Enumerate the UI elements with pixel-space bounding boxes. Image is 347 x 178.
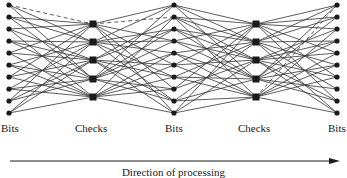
bit-node	[6, 86, 11, 91]
bit-node	[334, 50, 339, 55]
column-label-bits-middle: Bits	[165, 122, 183, 134]
bit-node	[334, 14, 339, 19]
check-node	[90, 76, 97, 83]
bit-node	[334, 98, 339, 103]
check-node	[253, 39, 260, 46]
edge	[9, 42, 93, 65]
bit-node	[334, 62, 339, 67]
edge	[93, 5, 174, 24]
edge	[256, 5, 337, 42]
bit-node	[334, 110, 339, 115]
bit-node	[171, 38, 176, 43]
bit-node	[6, 50, 11, 55]
check-node	[90, 94, 97, 101]
edge	[93, 29, 174, 42]
check-node	[253, 21, 260, 28]
bit-node	[334, 38, 339, 43]
bit-node	[171, 98, 176, 103]
edge	[256, 42, 337, 113]
check-node	[253, 94, 260, 101]
bit-node	[171, 110, 176, 115]
check-node	[253, 57, 260, 64]
bit-node	[171, 50, 176, 55]
edge	[256, 42, 337, 65]
check-node	[253, 76, 260, 83]
bit-node	[6, 2, 11, 7]
edge	[9, 29, 93, 60]
bit-node	[334, 74, 339, 79]
bit-node	[171, 86, 176, 91]
column-label-checks-2: Checks	[238, 122, 270, 134]
edge	[9, 65, 93, 79]
bit-node	[171, 62, 176, 67]
bit-node	[6, 26, 11, 31]
edge	[256, 65, 337, 79]
bit-node	[6, 14, 11, 19]
dashed-edge	[256, 5, 337, 97]
edge	[9, 42, 93, 113]
bit-node	[6, 98, 11, 103]
dashed-edge	[93, 17, 174, 24]
bit-node	[171, 26, 176, 31]
arrowhead-icon	[329, 158, 340, 164]
edge	[174, 77, 256, 97]
edge	[93, 77, 174, 97]
edge	[256, 41, 337, 60]
check-node	[90, 39, 97, 46]
direction-caption: Direction of processing	[0, 166, 347, 178]
edge	[174, 5, 256, 79]
edge	[174, 29, 256, 42]
bit-node	[334, 2, 339, 7]
direction-arrow	[10, 158, 340, 164]
bit-node	[334, 86, 339, 91]
bit-node	[171, 14, 176, 19]
bit-node	[171, 2, 176, 7]
edge	[9, 53, 93, 60]
edge	[9, 41, 93, 60]
graph-edges	[9, 5, 337, 113]
edge	[256, 29, 337, 60]
edge	[174, 77, 256, 79]
check-node	[90, 21, 97, 28]
column-label-checks-1: Checks	[75, 122, 107, 134]
column-label-bits-left: Bits	[1, 122, 19, 134]
check-node	[90, 57, 97, 64]
edge	[256, 53, 337, 60]
edge	[9, 5, 93, 42]
tanner-graph	[0, 0, 347, 178]
bit-node	[171, 74, 176, 79]
bit-node	[334, 26, 339, 31]
bit-node	[6, 74, 11, 79]
bit-node	[6, 38, 11, 43]
bit-node	[6, 62, 11, 67]
bit-node	[6, 110, 11, 115]
column-label-bits-right: Bits	[328, 122, 346, 134]
